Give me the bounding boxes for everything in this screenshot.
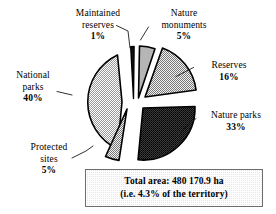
slice-value-nature-parks: 33% <box>198 122 274 134</box>
slice-label-reserves: Reserves 16% <box>196 60 262 83</box>
slice-label-protected-sites: Protected sites 5% <box>18 142 80 177</box>
pie-slice-maintained-reserves <box>131 46 134 98</box>
slice-label-protected-sites-line2: sites <box>18 154 80 166</box>
slice-label-national-parks-line1: National <box>2 70 64 82</box>
slice-label-nature-parks-line1: Nature parks <box>198 110 274 122</box>
slice-value-reserves: 16% <box>196 72 262 84</box>
slice-value-protected-sites: 5% <box>18 165 80 177</box>
total-area-line1: Total area: 480 170.9 ha <box>124 175 223 188</box>
slice-label-nature-monuments-line1: Nature <box>148 8 220 20</box>
total-area-line2: (i.e. 4.3% of the territory) <box>120 188 228 201</box>
slice-label-maintained-reserves: Maintained reserves 1% <box>60 8 136 43</box>
slice-label-national-parks: National parks 40% <box>2 70 64 105</box>
slice-value-maintained-reserves: 1% <box>60 31 136 43</box>
slice-value-national-parks: 40% <box>2 93 64 105</box>
slice-label-nature-monuments: Nature monuments 5% <box>148 8 220 43</box>
slice-value-nature-monuments: 5% <box>148 31 220 43</box>
pie-slice-nature-parks <box>138 107 195 161</box>
slice-label-nature-parks: Nature parks 33% <box>198 110 274 133</box>
pie-chart-figure: Maintained reserves 1% Nature monuments … <box>0 0 276 214</box>
slice-label-nature-monuments-line2: monuments <box>148 20 220 32</box>
slice-label-reserves-line1: Reserves <box>196 60 262 72</box>
slice-label-protected-sites-line1: Protected <box>18 142 80 154</box>
slice-label-national-parks-line2: parks <box>2 82 64 94</box>
total-area-callout: Total area: 480 170.9 ha (i.e. 4.3% of t… <box>85 169 263 207</box>
slice-label-maintained-reserves-line1: Maintained <box>60 8 136 20</box>
slice-label-maintained-reserves-line2: reserves <box>60 20 136 32</box>
